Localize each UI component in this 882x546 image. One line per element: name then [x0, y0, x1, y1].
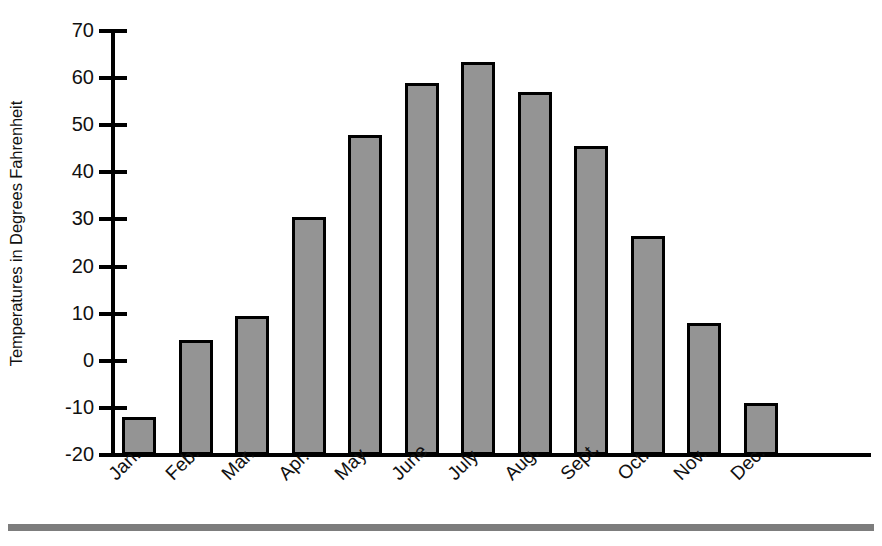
- y-axis-tick: [99, 359, 127, 363]
- y-axis-tick-label: 70: [38, 20, 94, 40]
- bar: [179, 340, 213, 455]
- bar: [687, 323, 721, 455]
- bar: [518, 92, 552, 455]
- y-axis-tick-label: 20: [38, 256, 94, 276]
- y-axis-tick: [99, 265, 127, 269]
- y-axis-tick: [99, 76, 127, 80]
- x-axis-label: Dec.: [727, 442, 768, 483]
- y-axis-tick-label: 50: [38, 114, 94, 134]
- x-axis-label: Feb.: [162, 443, 202, 483]
- y-axis-tick: [99, 312, 127, 316]
- chart-page: Temperatures in Degrees Fahrenheit 70605…: [0, 0, 882, 546]
- bar: [292, 217, 326, 455]
- y-axis-tick-label: 0: [38, 350, 94, 370]
- plot-area: 706050403020100-10-20 Jan.Feb.Mar.Apr.Ma…: [0, 0, 882, 546]
- x-axis-label: Aug.: [501, 442, 542, 483]
- bar: [631, 236, 665, 455]
- x-axis-label: Sept.: [557, 439, 602, 484]
- y-axis-line: [111, 31, 115, 457]
- y-axis-tick-label: 60: [38, 67, 94, 87]
- y-axis-tick-label: 40: [38, 161, 94, 181]
- y-axis-tick: [99, 217, 127, 221]
- y-axis-tick: [99, 406, 127, 410]
- bar: [574, 146, 608, 455]
- y-axis-tick: [99, 29, 127, 33]
- bar: [348, 135, 382, 455]
- bar: [235, 316, 269, 455]
- y-axis-tick-label: 30: [38, 208, 94, 228]
- y-axis-tick: [99, 170, 127, 174]
- y-axis-tick-label: 10: [38, 303, 94, 323]
- y-axis-tick: [99, 123, 127, 127]
- bottom-rule: [8, 524, 874, 531]
- bar: [405, 83, 439, 455]
- y-axis-tick-label: -20: [38, 444, 94, 464]
- bar: [461, 62, 495, 455]
- x-axis-label: June: [388, 441, 431, 484]
- y-axis-tick-label: -10: [38, 397, 94, 417]
